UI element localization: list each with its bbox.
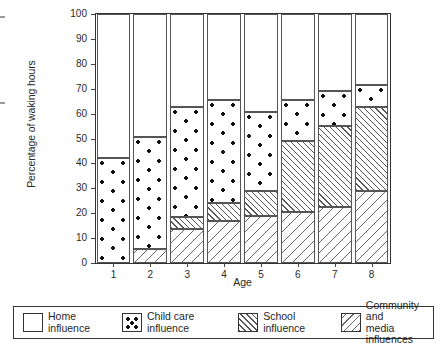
bar-segment-home[interactable] xyxy=(281,14,315,100)
y-axis-title: Percentage of waking hours xyxy=(25,49,37,199)
bar-segment-school[interactable] xyxy=(318,126,352,207)
bar-segment-child-care[interactable] xyxy=(355,85,389,107)
bar-segment-home[interactable] xyxy=(244,14,278,112)
bar-segment-home[interactable] xyxy=(355,14,389,85)
plain-white-swatch xyxy=(23,313,43,332)
dense-hatch-swatch xyxy=(238,313,258,332)
y-tick-mark xyxy=(91,238,95,239)
bar-age-6[interactable] xyxy=(281,14,315,263)
y-tick-mark xyxy=(91,64,95,65)
chart-legend: Home influenceChild care influenceSchool… xyxy=(13,306,434,339)
bar-segment-home[interactable] xyxy=(97,14,131,158)
legend-item-school[interactable]: School influence xyxy=(238,307,329,338)
x-tick-mark xyxy=(298,263,299,267)
legend-item-childcare[interactable]: Child care influence xyxy=(122,307,226,338)
y-tick-label: 80 xyxy=(61,59,87,69)
bar-segment-school[interactable] xyxy=(244,191,278,216)
legend-item-home[interactable]: Home influence xyxy=(23,307,110,338)
y-tick-label: 50 xyxy=(61,134,87,144)
x-tick-mark xyxy=(113,263,114,267)
y-tick-label: 30 xyxy=(61,183,87,193)
bar-segment-school[interactable] xyxy=(207,203,241,220)
chart-plot-region: Percentage of waking hours 0102030405060… xyxy=(0,0,448,296)
legend-item-label: Home influence xyxy=(48,311,110,334)
y-tick-label: 70 xyxy=(61,84,87,94)
bar-segment-home[interactable] xyxy=(170,14,204,107)
bar-segment-community-media[interactable] xyxy=(281,212,315,263)
bar-segment-child-care[interactable] xyxy=(207,100,241,203)
y-tick-label: 20 xyxy=(61,208,87,218)
y-tick-mark xyxy=(91,89,95,90)
y-tick-label: 0 xyxy=(61,258,87,268)
x-tick-mark xyxy=(150,263,151,267)
bar-segment-child-care[interactable] xyxy=(281,100,315,141)
y-tick-mark xyxy=(91,114,95,115)
x-tick-mark xyxy=(372,263,373,267)
legend-item-label: Child care influence xyxy=(147,311,226,334)
legend-item-label: Community and media influences xyxy=(366,300,433,346)
legend-item-community[interactable]: Community and media influences xyxy=(341,307,433,338)
bar-segment-community-media[interactable] xyxy=(244,216,278,263)
bar-segment-school[interactable] xyxy=(281,141,315,212)
bar-segment-child-care[interactable] xyxy=(133,137,167,249)
bar-segment-community-media[interactable] xyxy=(133,249,167,263)
y-tick-mark xyxy=(91,39,95,40)
dotted-swatch xyxy=(122,313,142,332)
bar-segment-child-care[interactable] xyxy=(170,107,204,217)
y-tick-mark xyxy=(91,163,95,164)
y-tick-mark xyxy=(91,139,95,140)
x-tick-mark xyxy=(224,263,225,267)
bar-segment-community-media[interactable] xyxy=(207,221,241,263)
y-tick-label: 60 xyxy=(61,109,87,119)
bar-age-8[interactable] xyxy=(355,14,389,263)
y-tick-label: 10 xyxy=(61,233,87,243)
legend-item-label: School influence xyxy=(263,311,329,334)
bar-segment-home[interactable] xyxy=(133,14,167,137)
bar-segment-child-care[interactable] xyxy=(244,112,278,190)
bar-age-7[interactable] xyxy=(318,14,352,263)
x-axis-title: Age xyxy=(95,276,390,288)
bar-age-2[interactable] xyxy=(133,14,167,263)
bar-age-1[interactable] xyxy=(97,14,131,263)
bar-segment-home[interactable] xyxy=(318,14,352,91)
bar-segment-child-care[interactable] xyxy=(318,91,352,126)
y-tick-mark xyxy=(91,188,95,189)
x-tick-mark xyxy=(261,263,262,267)
y-tick-mark xyxy=(91,263,95,264)
bar-segment-school[interactable] xyxy=(355,107,389,190)
y-tick-mark xyxy=(91,14,95,15)
bar-segment-community-media[interactable] xyxy=(355,191,389,263)
bar-segment-home[interactable] xyxy=(207,14,241,100)
bar-segment-community-media[interactable] xyxy=(170,229,204,263)
y-tick-label: 40 xyxy=(61,158,87,168)
bar-segment-community-media[interactable] xyxy=(318,207,352,263)
figure-stacked-bar-chart: Percentage of waking hours 0102030405060… xyxy=(0,0,448,352)
y-tick-label: 100 xyxy=(61,9,87,19)
bar-segment-child-care[interactable] xyxy=(97,158,131,263)
x-tick-mark xyxy=(335,263,336,267)
x-tick-mark xyxy=(187,263,188,267)
bar-age-4[interactable] xyxy=(207,14,241,263)
y-tick-label: 90 xyxy=(61,34,87,44)
y-tick-mark xyxy=(91,213,95,214)
sparse-hatch-swatch xyxy=(341,313,361,332)
bar-age-5[interactable] xyxy=(244,14,278,263)
bar-segment-school[interactable] xyxy=(170,217,204,229)
bar-age-3[interactable] xyxy=(170,14,204,263)
